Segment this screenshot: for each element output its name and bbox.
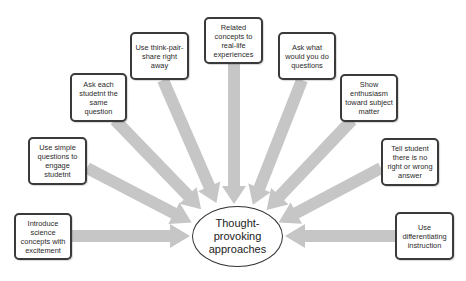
center-label-line-3: approaches (209, 243, 267, 256)
arrow-n8 (273, 157, 387, 233)
node-label: Ask each studetnt the same question (75, 80, 122, 116)
node-ask-what-would-you-do: Ask what would you do questions (278, 32, 336, 80)
node-related-concepts: Related concepts to real-life experience… (204, 17, 263, 64)
node-no-right-or-wrong: Tell student there is no right or wrong … (381, 138, 439, 186)
node-label: Related concepts to real-life experience… (209, 23, 258, 59)
node-introduce-science-concepts: Introduce science concepts with exciteme… (14, 213, 72, 260)
node-label: Ask what would you do questions (283, 43, 331, 70)
node-label: Tell student there is no right or wrong … (386, 144, 434, 180)
center-label-line-1: Thought- (209, 217, 267, 230)
arrow-n4 (152, 75, 227, 207)
node-label: Introduce science concepts with exciteme… (19, 219, 67, 255)
center-node-thought-provoking: Thought- provoking approaches (192, 206, 283, 267)
node-label: Use think-pair-share right away (135, 43, 184, 70)
node-label: Use simple questions to engage studetnt (33, 143, 82, 179)
arrow-n1 (72, 224, 190, 248)
node-differentiating-instruction: Use differentiating instruction (395, 212, 454, 260)
center-label-line-2: provoking (209, 230, 267, 243)
node-use-simple-questions: Use simple questions to engage studetnt (28, 137, 87, 185)
node-label: Show enthusiasm toward subject matter (345, 80, 393, 116)
node-ask-each-student: Ask each studetnt the same question (70, 73, 127, 122)
node-think-pair-share: Use think-pair-share right away (130, 32, 189, 80)
node-show-enthusiasm: Show enthusiasm toward subject matter (340, 74, 398, 122)
node-label: Use differentiating instruction (400, 223, 449, 250)
arrow-n6 (242, 76, 313, 209)
arrow-n9 (285, 224, 395, 248)
arrow-n5 (222, 64, 246, 204)
